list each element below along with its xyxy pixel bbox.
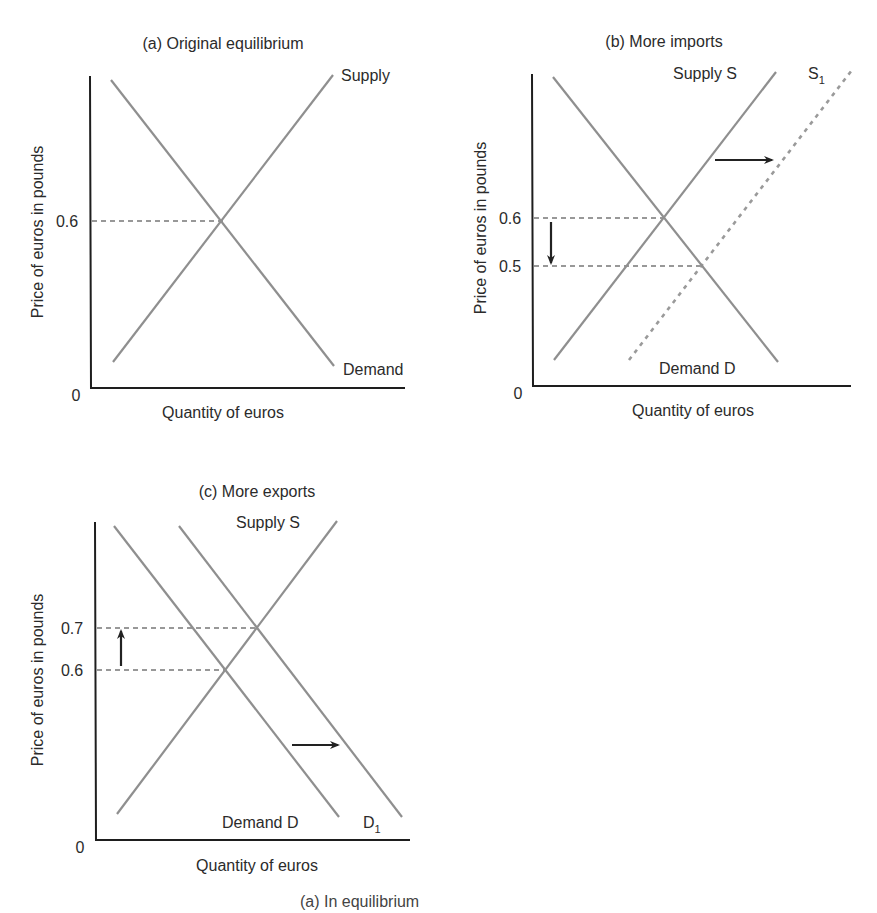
panel-c-tick-0.7: 0.7 xyxy=(61,620,83,637)
panel-a-xlabel: Quantity of euros xyxy=(162,404,284,421)
panel-a-supply-label: Supply xyxy=(341,67,390,84)
panel-b-demand-label: Demand D xyxy=(659,360,735,377)
figure-caption-partial: (a) In equilibrium xyxy=(300,893,860,913)
panel-b-ylabel: Price of euros in pounds xyxy=(472,142,489,315)
panel-a-title: (a) Original equilibrium xyxy=(143,35,304,52)
panel-a-axes xyxy=(90,76,405,388)
panel-c-ylabel: Price of euros in pounds xyxy=(29,594,46,767)
panel-a: (a) Original equilibrium Price of euros … xyxy=(29,35,405,421)
panel-b: (b) More imports Price of euros in pound… xyxy=(472,33,852,419)
panel-b-supply1-sub: 1 xyxy=(819,74,825,86)
panel-a-ylabel: Price of euros in pounds xyxy=(29,146,46,319)
panel-a-origin: 0 xyxy=(72,387,81,404)
panel-b-tick-0.6: 0.6 xyxy=(499,210,521,227)
panel-b-axes xyxy=(532,74,851,386)
panel-c-demand1-sub: 1 xyxy=(375,823,381,835)
panel-c-tick-0.6: 0.6 xyxy=(61,662,83,679)
panel-c-demand1-curve xyxy=(179,526,402,817)
panel-c-demand-label: Demand D xyxy=(222,814,298,831)
panel-a-demand-curve xyxy=(111,80,334,366)
panel-c-supply-label: Supply S xyxy=(236,514,300,531)
panel-b-tick-0.5: 0.5 xyxy=(499,258,521,275)
panel-b-xlabel: Quantity of euros xyxy=(632,402,754,419)
panel-c-title: (c) More exports xyxy=(199,483,315,500)
panel-b-supply1-main: S xyxy=(808,65,819,82)
panel-a-supply-curve xyxy=(113,75,333,362)
panel-b-origin: 0 xyxy=(514,385,523,402)
panel-c-demand1-main: D xyxy=(363,814,375,831)
panel-c-origin: 0 xyxy=(76,839,85,856)
panel-c-demand1-label: D1 xyxy=(363,814,381,835)
panel-a-demand-label: Demand xyxy=(343,361,403,378)
panel-c-axes xyxy=(95,522,410,840)
panel-b-supply-label: Supply S xyxy=(673,65,737,82)
panel-c: (c) More exports Price of euros in pound… xyxy=(29,483,410,874)
panel-b-title: (b) More imports xyxy=(605,33,722,50)
panel-a-tick-0.6: 0.6 xyxy=(56,213,78,230)
panel-b-supply1-label: S1 xyxy=(808,65,825,86)
panel-c-xlabel: Quantity of euros xyxy=(196,857,318,874)
